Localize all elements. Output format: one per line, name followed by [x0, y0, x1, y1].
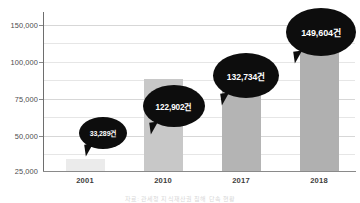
bar-2001	[66, 159, 105, 171]
x-axis-label-2001: 2001	[76, 176, 94, 185]
value-callout-2017: 132,734건	[213, 53, 279, 98]
x-axis-label-2010: 2010	[154, 176, 172, 185]
callout-tail-icon	[84, 143, 95, 156]
y-axis-tick-label: 150,000	[0, 21, 38, 30]
x-axis-label-2018: 2018	[310, 176, 328, 185]
bar-chart: 150,000 100,000 75,000 50,000 25,000 200…	[0, 0, 360, 203]
x-axis-labels: 2001 2010 2017 2018	[43, 176, 355, 190]
value-callout-2001: 33,289건	[79, 117, 127, 149]
chart-source-caption: 자료: 관세청 지식재산권 침해 단속 현황	[0, 194, 360, 203]
callout-tail-icon	[294, 50, 305, 63]
value-callout-2018: 149,604건	[286, 8, 356, 56]
value-callout-label: 33,289건	[90, 128, 117, 138]
callout-tail-icon	[220, 92, 231, 105]
y-axis-tick-label: 100,000	[0, 58, 38, 67]
y-axis-tick-label: 25,000	[0, 167, 38, 176]
value-callout-label: 122,902건	[156, 100, 193, 112]
x-axis-label-2017: 2017	[232, 176, 250, 185]
value-callout-2010: 122,902건	[143, 85, 205, 127]
y-axis-tick-label: 75,000	[0, 95, 38, 104]
callout-tail-icon	[150, 121, 161, 134]
y-axis-tick-label: 50,000	[0, 132, 38, 141]
bar-2018	[300, 43, 339, 171]
y-axis-labels: 150,000 100,000 75,000 50,000 25,000	[0, 0, 38, 203]
x-axis-line	[43, 171, 356, 172]
value-callout-label: 132,734건	[227, 70, 265, 82]
value-callout-label: 149,604건	[301, 26, 341, 39]
